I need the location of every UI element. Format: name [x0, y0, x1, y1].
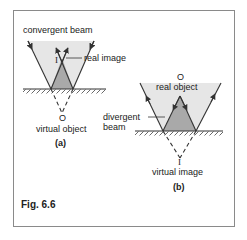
real-image-label: real image: [84, 54, 126, 63]
divergent-beam-label-line1: divergent: [103, 113, 140, 122]
real-object-symbol: O: [177, 73, 184, 82]
virtual-image-symbol: I: [178, 158, 181, 167]
real-object-label: real object: [156, 83, 198, 92]
real-image-symbol: I: [55, 56, 58, 65]
convergent-beam-label: convergent beam: [23, 26, 93, 35]
virtual-object-symbol: O: [59, 114, 66, 123]
panel-b-label: (b): [173, 183, 185, 192]
divergent-beam-label-line2: beam: [103, 123, 126, 132]
virtual-object-label: virtual object: [36, 125, 87, 134]
virtual-image-label: virtual image: [152, 168, 203, 177]
panel-a-diagram: [23, 41, 106, 113]
figure-caption: Fig. 6.6: [21, 200, 55, 210]
mirror-hatching-b: [135, 132, 223, 136]
mirror-hatching-a: [23, 90, 106, 94]
panel-a-label: (a): [55, 139, 66, 148]
panel-b-diagram: [135, 83, 223, 158]
